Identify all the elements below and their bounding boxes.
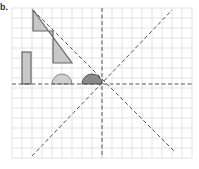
- coordinate-grid-diagram: [0, 0, 199, 169]
- light-semicircle-shape: [52, 74, 72, 84]
- rectangle-shape: [22, 52, 31, 84]
